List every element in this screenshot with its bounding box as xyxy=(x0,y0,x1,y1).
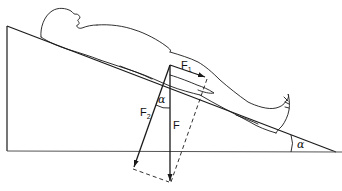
ground-baseline xyxy=(7,151,342,152)
label-alpha-vectors: α xyxy=(158,94,165,105)
label-f1: F1 xyxy=(181,60,192,73)
label-alpha-incline: α xyxy=(297,139,304,150)
incline-angle-arc xyxy=(291,135,293,152)
label-f2: F2 xyxy=(140,107,151,120)
dashed-line-f2-to-f xyxy=(133,169,169,182)
label-f: F xyxy=(173,120,180,131)
incline-plane xyxy=(7,26,342,152)
human-body-outline xyxy=(41,8,290,133)
force-vectors xyxy=(134,65,205,181)
inclined-plane-diagram xyxy=(0,0,342,191)
